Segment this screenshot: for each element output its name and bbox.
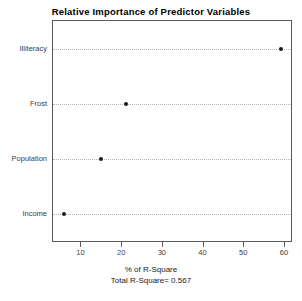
x-tick-mark — [162, 242, 163, 247]
x-tick-label: 60 — [280, 248, 288, 257]
data-point — [279, 47, 283, 51]
chart-title: Relative Importance of Predictor Variabl… — [0, 6, 302, 17]
x-tick-mark — [203, 242, 204, 247]
total-r-square-label: Total R-Square= 0.567 — [0, 275, 302, 286]
x-tick-label: 40 — [198, 248, 206, 257]
gridline-row — [53, 104, 291, 105]
data-point — [62, 212, 66, 216]
x-tick-mark — [284, 242, 285, 247]
y-tick-label: Illiteracy — [19, 43, 47, 52]
x-tick-label: 20 — [117, 248, 125, 257]
x-axis-label: % of R-Square — [0, 264, 302, 275]
y-tick-label: Frost — [30, 98, 47, 107]
gridline-row — [53, 159, 291, 160]
gridline-row — [53, 49, 291, 50]
x-tick-label: 50 — [239, 248, 247, 257]
x-tick-mark — [121, 242, 122, 247]
y-axis: IncomePopulationFrostIlliteracy — [0, 20, 47, 242]
x-tick-label: 10 — [76, 248, 84, 257]
gridline-row — [53, 214, 291, 215]
x-tick-mark — [80, 242, 81, 247]
plot-area — [52, 20, 292, 242]
x-axis-caption-block: % of R-Square Total R-Square= 0.567 — [0, 264, 302, 286]
data-point — [99, 157, 103, 161]
y-tick-label: Income — [22, 208, 47, 217]
data-point — [124, 102, 128, 106]
dot-plot-chart: Relative Importance of Predictor Variabl… — [0, 0, 302, 301]
y-tick-label: Population — [12, 153, 47, 162]
x-tick-label: 30 — [158, 248, 166, 257]
x-tick-mark — [243, 242, 244, 247]
